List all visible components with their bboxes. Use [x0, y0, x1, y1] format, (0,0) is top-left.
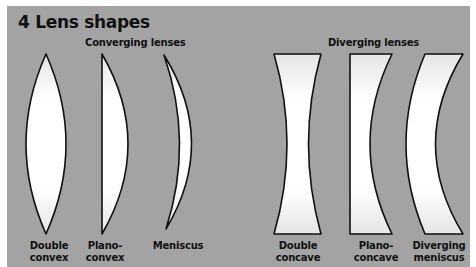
- meniscus-label: Meniscus: [138, 240, 218, 252]
- label-line: convex: [65, 252, 145, 264]
- label-line: Double: [258, 240, 338, 252]
- label-line: Diverging: [404, 240, 474, 252]
- meniscus-lens: [164, 55, 192, 229]
- label-line: Plano-: [65, 240, 145, 252]
- plano-convex-lens: [102, 54, 128, 234]
- lens-diagram: [0, 0, 476, 267]
- double-concave-lens: [274, 54, 321, 234]
- label-line: Meniscus: [138, 240, 218, 252]
- plano-convex-label: Plano- convex: [65, 240, 145, 264]
- diverging-meniscus-label: Diverging meniscus: [404, 240, 474, 264]
- double-concave-label: Double concave: [258, 240, 338, 264]
- label-line: meniscus: [404, 252, 474, 264]
- plano-concave-lens: [350, 54, 392, 234]
- double-convex-lens: [26, 54, 66, 234]
- diverging-meniscus-lens: [406, 54, 463, 234]
- label-line: concave: [258, 252, 338, 264]
